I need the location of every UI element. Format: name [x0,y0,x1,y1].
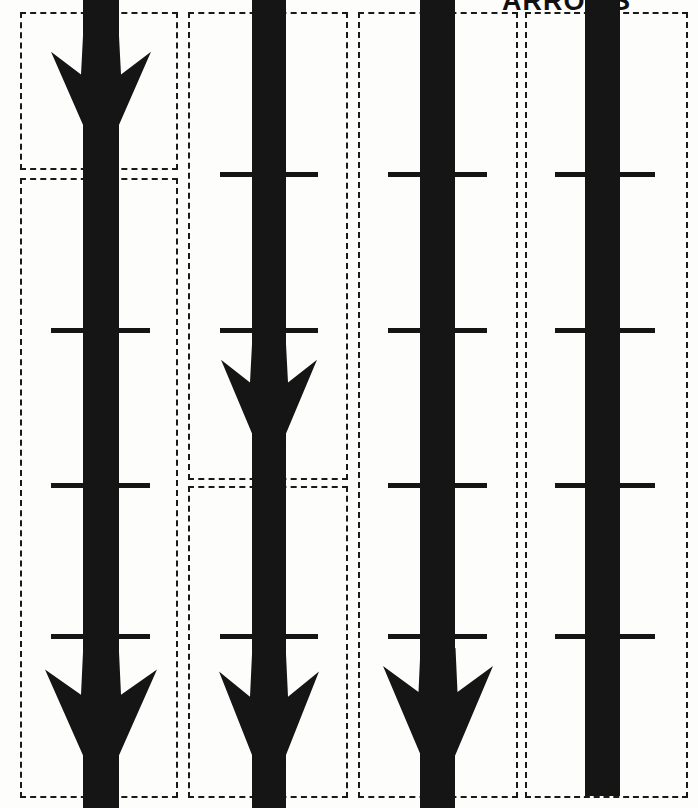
tick-mark [555,328,655,333]
tick-mark [555,172,655,177]
arrow-shaft [585,0,620,796]
scan-canvas: ARROWS [0,0,698,808]
column-4 [0,0,698,808]
tick-mark [555,483,655,488]
tick-mark [555,634,655,639]
